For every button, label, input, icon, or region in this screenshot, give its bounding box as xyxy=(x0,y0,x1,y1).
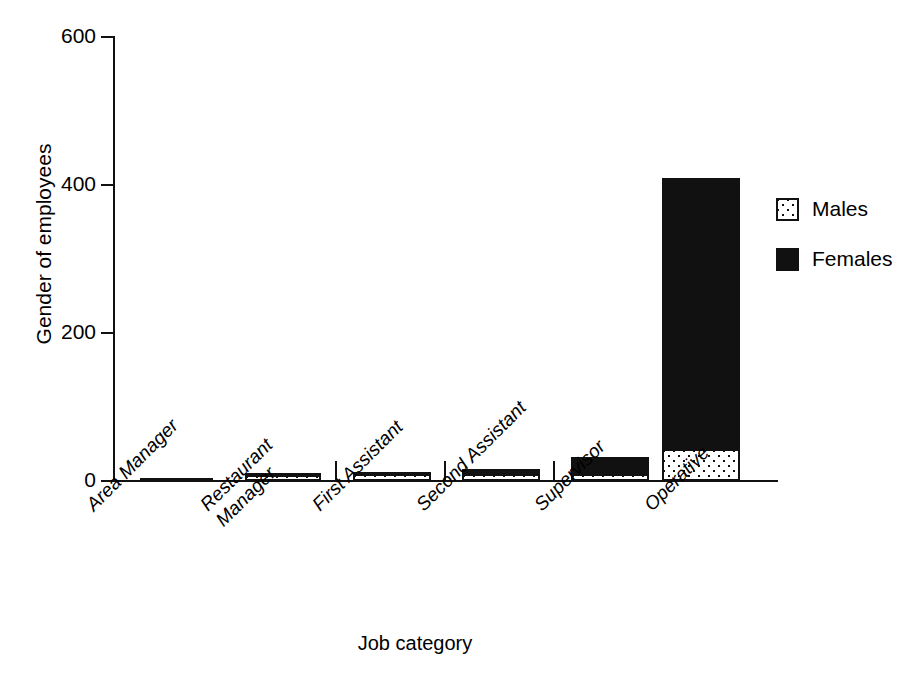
legend-label-males: Males xyxy=(812,196,868,222)
bar-segment-females xyxy=(140,478,213,481)
legend-swatch-females-icon xyxy=(776,248,799,271)
y-axis-title: Gender of employees xyxy=(32,114,56,374)
y-tick-label-0-wrap: 0 xyxy=(28,469,96,490)
bar-chart: 600 400 200 0 Gender of employees xyxy=(0,0,913,687)
y-tick-label-600-wrap: 600 xyxy=(28,25,96,46)
plot-area xyxy=(113,36,775,481)
x-axis-title: Job category xyxy=(0,632,830,655)
legend-label-females: Females xyxy=(812,246,893,272)
bar-operative[interactable] xyxy=(662,178,740,481)
bar-area-manager[interactable] xyxy=(140,478,213,481)
bar-segment-females xyxy=(662,178,740,450)
y-tick-label-0: 0 xyxy=(36,469,96,490)
bar-segment-males xyxy=(353,474,431,481)
legend-row-males: Males xyxy=(776,196,913,246)
bar-second-assistant[interactable] xyxy=(462,469,540,481)
legend-swatch-males-icon xyxy=(776,198,799,221)
bar-segment-males xyxy=(462,474,540,481)
legend-row-females: Females xyxy=(776,246,913,296)
bar-segment-females xyxy=(462,469,540,475)
legend: Males Females xyxy=(776,196,913,296)
y-tick-label-600: 600 xyxy=(36,25,96,46)
